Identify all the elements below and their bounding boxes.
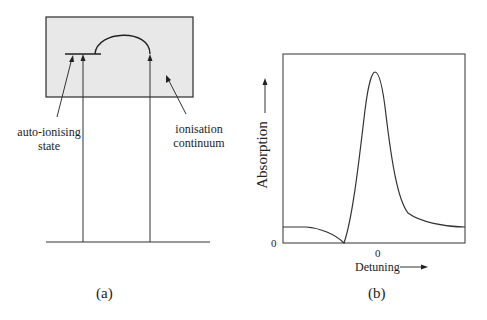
plot-frame	[283, 54, 465, 243]
absorption-curve	[283, 72, 465, 243]
x-zero-tick: 0	[375, 246, 381, 260]
figure-canvas	[0, 0, 487, 320]
y-zero-tick: 0	[271, 236, 277, 250]
autoionising-label-line2: state	[14, 139, 84, 153]
caption-a: (a)	[96, 285, 113, 302]
arrowhead-icon	[421, 265, 428, 270]
arrowhead-icon	[263, 78, 268, 85]
autoionising-label-line1: auto-ionising	[14, 125, 84, 139]
caption-b: (b)	[368, 285, 386, 302]
continuum-label-line2: continuum	[168, 136, 230, 150]
autoionising-label: auto-ionising state	[14, 125, 84, 153]
continuum-label-line1: ionisation	[168, 122, 230, 136]
y-axis-label: Absorption	[255, 119, 269, 191]
x-axis-label: Detuning	[355, 260, 400, 274]
continuum-label: ionisation continuum	[168, 122, 230, 150]
